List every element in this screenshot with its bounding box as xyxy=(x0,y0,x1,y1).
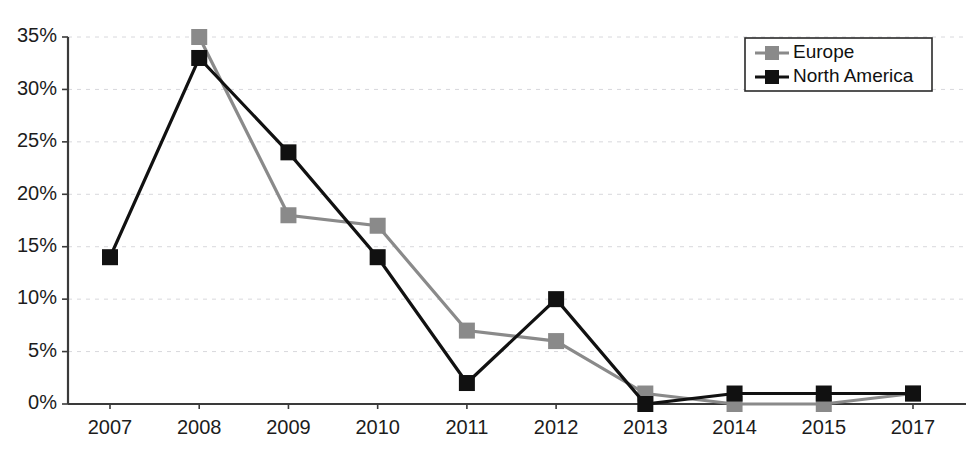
data-point-marker xyxy=(637,396,653,412)
data-point-marker xyxy=(191,29,207,45)
x-axis-tick-label: 2014 xyxy=(712,416,757,438)
legend-marker-europe xyxy=(765,46,779,60)
legend-label: North America xyxy=(793,65,914,86)
data-point-marker xyxy=(459,375,475,391)
data-point-marker xyxy=(816,386,832,402)
data-point-marker xyxy=(548,291,564,307)
line-chart: 0%5%10%15%20%25%30%35% 20072008200920102… xyxy=(0,0,970,453)
data-point-marker xyxy=(370,249,386,265)
legend-marker-north-america xyxy=(765,70,779,84)
chart-legend: EuropeNorth America xyxy=(745,38,932,91)
data-point-marker xyxy=(280,144,296,160)
y-axis-tick-label: 30% xyxy=(17,77,57,99)
chart-canvas: 0%5%10%15%20%25%30%35% 20072008200920102… xyxy=(0,0,970,453)
data-point-marker xyxy=(548,333,564,349)
data-point-marker xyxy=(191,50,207,66)
x-axis-tick-label: 2008 xyxy=(177,416,222,438)
x-axis-tick-label: 2011 xyxy=(445,416,488,438)
x-axis-tick-label: 2010 xyxy=(355,416,400,438)
y-axis-tick-label: 5% xyxy=(28,339,57,361)
data-point-marker xyxy=(102,249,118,265)
y-axis-tick-label: 20% xyxy=(17,182,57,204)
y-axis-tick-label: 10% xyxy=(17,286,57,308)
y-axis-tick-label: 15% xyxy=(17,234,57,256)
legend-label: Europe xyxy=(793,41,854,62)
data-point-marker xyxy=(280,207,296,223)
data-point-marker xyxy=(727,386,743,402)
x-axis-tick-label: 2007 xyxy=(88,416,133,438)
x-axis-tick-label: 2009 xyxy=(266,416,311,438)
y-axis-tick-label: 35% xyxy=(17,24,57,46)
y-axis-tick-label: 0% xyxy=(28,391,57,413)
x-axis-tick-label: 2015 xyxy=(802,416,847,438)
x-axis-tick-label: 2017 xyxy=(891,416,936,438)
y-axis-tick-label: 25% xyxy=(17,129,57,151)
data-point-marker xyxy=(905,386,921,402)
data-point-marker xyxy=(459,323,475,339)
data-point-marker xyxy=(370,218,386,234)
x-axis-tick-label: 2012 xyxy=(534,416,579,438)
x-axis-tick-label: 2013 xyxy=(623,416,668,438)
